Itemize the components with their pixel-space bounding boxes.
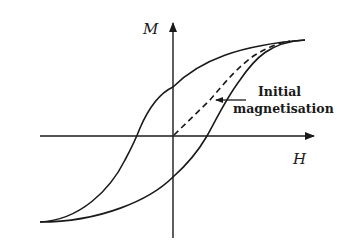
annotation-line2: magnetisation [233, 101, 334, 116]
annotation-line1: Initial [258, 84, 301, 99]
m-axis-label: M [143, 20, 158, 38]
h-axis-label: H [293, 150, 306, 168]
hysteresis-diagram [0, 0, 337, 245]
